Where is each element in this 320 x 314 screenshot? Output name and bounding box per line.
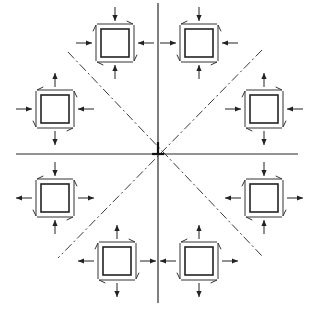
arrowhead-icon [52, 170, 57, 176]
arrowhead-icon [232, 258, 238, 263]
normal-arrow-right [140, 258, 156, 263]
square-element [185, 29, 213, 57]
shear-arrow [33, 91, 36, 127]
stress-element-top-left [76, 7, 154, 79]
arrowhead-icon [112, 65, 117, 71]
square-element [250, 95, 278, 123]
shear-arrow [181, 62, 217, 65]
shear-arrow [177, 25, 180, 61]
shear-arrow [93, 25, 96, 61]
arrowhead-icon [261, 73, 266, 79]
arrowhead-icon [88, 195, 94, 200]
shear-arrow [37, 176, 73, 179]
normal-arrow-left [160, 40, 176, 45]
shear-arrow [134, 25, 137, 61]
shear-arrow [37, 128, 73, 131]
square-element [185, 247, 213, 275]
normal-arrow-top [261, 162, 266, 176]
arrowhead-icon [112, 15, 117, 21]
diagram-canvas [0, 0, 320, 314]
stress-element-diagram [0, 0, 320, 314]
shear-arrow [246, 217, 282, 220]
shear-arrow [218, 25, 221, 61]
normal-arrow-bottom [261, 131, 266, 145]
shear-arrow [246, 87, 282, 90]
normal-arrow-bottom [52, 220, 57, 234]
arrowhead-icon [225, 195, 231, 200]
shear-arrow [242, 180, 245, 216]
shear-arrow [283, 91, 286, 127]
arrowhead-icon [160, 258, 166, 263]
shear-arrow [95, 243, 98, 279]
shear-arrow [37, 87, 73, 90]
shear-arrow [97, 21, 133, 24]
shear-arrow [181, 239, 217, 242]
shear-arrow [74, 180, 77, 216]
shear-arrow [242, 91, 245, 127]
normal-arrow-bottom [196, 283, 201, 297]
normal-arrow-left [78, 258, 94, 263]
arrowhead-icon [16, 195, 22, 200]
stress-element-bottom-right [160, 225, 238, 297]
shear-arrow [218, 243, 221, 279]
arrowhead-icon [261, 170, 266, 176]
shear-arrow [74, 91, 77, 127]
arrowhead-icon [114, 225, 119, 231]
arrowhead-icon [297, 195, 303, 200]
arrowhead-icon [261, 220, 266, 226]
normal-arrow-left [16, 106, 32, 111]
arrowhead-icon [52, 139, 57, 145]
normal-arrow-bottom [112, 65, 117, 79]
normal-arrow-right [78, 195, 94, 200]
square-element [103, 247, 131, 275]
arrowhead-icon [150, 258, 156, 263]
normal-arrow-top [114, 225, 119, 239]
arrowhead-icon [52, 73, 57, 79]
stress-element-left-upper [16, 73, 94, 145]
normal-arrow-right [287, 195, 303, 200]
arrowhead-icon [196, 15, 201, 21]
normal-arrow-top [52, 73, 57, 87]
shear-arrow [99, 280, 135, 283]
arrowhead-icon [196, 291, 201, 297]
arrowhead-icon [287, 106, 293, 111]
arrowhead-icon [138, 40, 144, 45]
normal-arrow-top [112, 7, 117, 21]
square-element [41, 184, 69, 212]
shear-arrow [181, 21, 217, 24]
normal-arrow-top [196, 225, 201, 239]
arrowhead-icon [86, 40, 92, 45]
arrowhead-icon [196, 65, 201, 71]
shear-arrow [283, 180, 286, 216]
normal-arrow-top [52, 162, 57, 176]
normal-arrow-bottom [196, 65, 201, 79]
normal-arrow-right [78, 106, 94, 111]
normal-arrow-right [222, 40, 238, 45]
stress-element-left-lower [16, 162, 94, 234]
arrowhead-icon [78, 258, 84, 263]
normal-arrow-right [287, 106, 303, 111]
stress-element-bottom-left [78, 225, 156, 297]
normal-arrow-top [196, 7, 201, 21]
arrowhead-icon [170, 40, 176, 45]
arrowhead-icon [52, 220, 57, 226]
normal-arrow-right [138, 40, 154, 45]
shear-arrow [99, 239, 135, 242]
normal-arrow-left [225, 195, 241, 200]
normal-arrow-bottom [114, 283, 119, 297]
normal-arrow-left [160, 258, 176, 263]
normal-arrow-left [76, 40, 92, 45]
shear-arrow [136, 243, 139, 279]
stress-element-right-lower [225, 162, 303, 234]
shear-arrow [37, 217, 73, 220]
square-element [41, 95, 69, 123]
square-element [101, 29, 129, 57]
shear-arrow [181, 280, 217, 283]
normal-arrow-left [225, 106, 241, 111]
arrowhead-icon [235, 106, 241, 111]
shear-arrow [177, 243, 180, 279]
arrowhead-icon [114, 291, 119, 297]
stress-element-right-upper [225, 73, 303, 145]
arrowhead-icon [78, 106, 84, 111]
shear-arrow [246, 176, 282, 179]
